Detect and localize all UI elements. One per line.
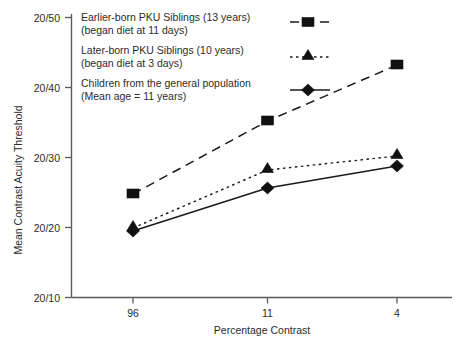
diamond-marker [391, 160, 404, 172]
triangle-marker [302, 50, 314, 60]
x-tick-label-0: 96 [127, 307, 139, 319]
diamond-marker [302, 84, 315, 96]
chart-canvas: 20/50 20/40 20/30 20/20 20/10 96 11 4 Pe… [0, 0, 462, 341]
square-marker [391, 60, 403, 69]
square-marker [127, 189, 139, 198]
y-tick-label-0: 20/50 [34, 12, 60, 24]
y-tick-label-4: 20/10 [34, 292, 60, 304]
square-marker [302, 18, 314, 27]
diamond-marker [261, 182, 274, 194]
y-tick-label-3: 20/20 [34, 222, 60, 234]
legend-label-line2: (Mean age = 11 years) [81, 90, 186, 102]
triangle-marker [262, 163, 274, 173]
chart-figure: 20/50 20/40 20/30 20/20 20/10 96 11 4 Pe… [0, 0, 462, 341]
x-axis-ticks: 96 11 4 [127, 298, 400, 320]
legend-entry-later-born: Later-born PKU Siblings (10 years) (bega… [81, 44, 330, 69]
x-axis-title: Percentage Contrast [214, 324, 310, 336]
square-marker [262, 116, 274, 125]
legend-label-line1: Earlier-born PKU Siblings (13 years) [81, 11, 250, 23]
y-axis-title: Mean Contrast Acuity Threshold [12, 105, 24, 254]
legend-label-line1: Later-born PKU Siblings (10 years) [81, 44, 244, 56]
x-tick-label-1: 11 [262, 307, 273, 319]
triangle-marker [391, 149, 403, 159]
y-tick-label-2: 20/30 [34, 152, 60, 164]
series-3-line [133, 166, 397, 231]
legend-entry-earlier-born: Earlier-born PKU Siblings (13 years) (be… [81, 11, 330, 36]
y-tick-label-1: 20/40 [34, 82, 60, 94]
y-axis-ticks: 20/50 20/40 20/30 20/20 20/10 [34, 12, 72, 304]
legend-label-line2: (began diet at 11 days) [81, 24, 188, 36]
legend-label-line2: (began diet at 3 days) [81, 57, 183, 69]
legend-label-line1: Children from the general population [81, 77, 251, 89]
legend-entry-general-population: Children from the general population (Me… [81, 77, 330, 102]
x-tick-label-2: 4 [394, 307, 400, 319]
diamond-marker [127, 225, 140, 237]
chart-legend: Earlier-born PKU Siblings (13 years) (be… [81, 11, 330, 102]
